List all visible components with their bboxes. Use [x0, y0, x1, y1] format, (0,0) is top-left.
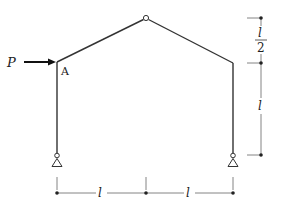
right-rafter [149, 20, 234, 64]
span-label-right: l [186, 186, 190, 200]
span-label-left: l [98, 186, 102, 200]
load-arrow-icon [24, 59, 56, 66]
right-pin-support-icon [228, 153, 238, 166]
column-height-label: l [258, 99, 262, 113]
load-label: P [6, 55, 16, 70]
left-rafter [57, 20, 144, 63]
left-pin-support-icon [52, 153, 62, 166]
crown-hinge-icon [143, 15, 148, 20]
joint-label-a: A [60, 65, 70, 78]
frame [57, 20, 233, 155]
horizontal-dimension [57, 177, 233, 193]
frame-diagram: P A l l l 2 l [0, 0, 281, 209]
rise-denominator: 2 [257, 41, 265, 55]
rise-numerator: l [258, 26, 262, 40]
